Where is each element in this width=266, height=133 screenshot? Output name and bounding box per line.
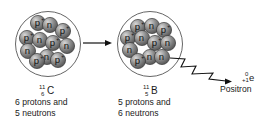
positive-charge-label: + bbox=[141, 54, 144, 60]
neutron-label: n bbox=[165, 37, 170, 48]
proton: p+ bbox=[130, 53, 145, 68]
neutron: n bbox=[160, 35, 175, 50]
carbon-element-symbol: C bbox=[47, 86, 54, 96]
positive-charge-label: + bbox=[30, 31, 33, 37]
proton-label: p bbox=[24, 32, 29, 43]
neutron-label: n bbox=[127, 44, 132, 55]
neutron-label: n bbox=[47, 19, 52, 30]
neutron: n bbox=[154, 49, 169, 64]
neutron: n bbox=[59, 38, 74, 53]
boron-11-nucleus: p+np+p+np+nnnnp+ bbox=[118, 12, 183, 77]
positive-charge-label: + bbox=[167, 23, 170, 29]
carbon-11-symbol: 11 6 C bbox=[38, 84, 58, 98]
neutron-label: n bbox=[139, 32, 144, 43]
proton-label: p bbox=[135, 21, 140, 32]
neutron-label: n bbox=[159, 51, 164, 62]
carbon-description-line2: 5 neutrons bbox=[15, 109, 56, 119]
positive-charge-label: + bbox=[141, 20, 144, 26]
neutron-label: n bbox=[149, 20, 154, 31]
neutron-label: n bbox=[147, 51, 152, 62]
carbon-11-nucleus: p+np+p+np+nnnp+p+ bbox=[16, 12, 81, 77]
proton-label: p bbox=[161, 24, 166, 35]
boron-mass-number: 11 bbox=[143, 84, 149, 90]
arrowhead-icon bbox=[105, 40, 112, 46]
neutron: n bbox=[32, 32, 47, 47]
positron-emission-path bbox=[170, 58, 232, 84]
positron-charge-number: +1 bbox=[242, 77, 249, 83]
zigzag-wave-icon bbox=[170, 58, 226, 81]
neutron-label: n bbox=[37, 34, 42, 45]
proton: p+ bbox=[45, 35, 60, 50]
proton: p+ bbox=[29, 53, 44, 68]
proton-label: p bbox=[55, 54, 60, 65]
proton-label: p bbox=[125, 32, 130, 43]
positron-label: Positron bbox=[220, 85, 252, 95]
boron-description-line2: 6 neutrons bbox=[118, 109, 159, 119]
carbon-description-line1: 6 protons and bbox=[15, 98, 68, 108]
proton-label: p bbox=[50, 37, 55, 48]
positron-element-symbol: e bbox=[249, 73, 254, 83]
boron-description-line1: 5 protons and bbox=[118, 98, 171, 108]
proton-label: p bbox=[60, 25, 65, 36]
reaction-arrow bbox=[83, 40, 112, 46]
positive-charge-label: + bbox=[131, 31, 134, 37]
positive-charge-label: + bbox=[61, 53, 64, 59]
positive-charge-label: + bbox=[56, 36, 59, 42]
neutron-label: n bbox=[64, 40, 69, 51]
boron-element-symbol: B bbox=[151, 86, 158, 96]
proton-label: p bbox=[152, 37, 157, 48]
proton-label: p bbox=[34, 55, 39, 66]
neutron-label: n bbox=[25, 45, 30, 56]
boron-11-symbol: 11 5 B bbox=[142, 84, 162, 98]
proton: p+ bbox=[50, 52, 65, 67]
proton-label: p bbox=[35, 17, 40, 28]
carbon-mass-number: 11 bbox=[39, 84, 45, 90]
positron-emission-diagram: p+np+p+np+nnnp+p+ p+np+p+np+nnnnp+ 0 +1 … bbox=[0, 0, 266, 133]
proton-label: p bbox=[135, 55, 140, 66]
positive-charge-label: + bbox=[66, 24, 69, 30]
positive-charge-label: + bbox=[40, 54, 43, 60]
